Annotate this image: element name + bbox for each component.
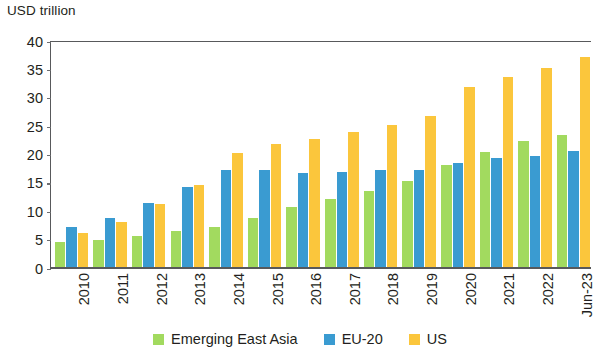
x-axis-label: 2016: [308, 273, 324, 305]
bar: [248, 218, 259, 269]
bar: [66, 227, 77, 268]
y-axis-tick-label: 15: [9, 174, 43, 193]
bar: [503, 77, 514, 268]
chart-legend: Emerging East AsiaEU-20US: [0, 332, 600, 347]
bar: [55, 242, 66, 268]
legend-swatch-icon: [409, 334, 420, 345]
x-axis-label: 2021: [501, 273, 517, 305]
legend-swatch-icon: [324, 334, 335, 345]
bar-group: [132, 42, 166, 268]
y-axis-unit-title: USD trillion: [7, 3, 76, 18]
bar: [182, 187, 193, 268]
bar: [271, 144, 282, 268]
bar-group: [557, 42, 591, 268]
bar: [325, 199, 336, 268]
y-axis-tick-label: 10: [9, 203, 43, 222]
bar: [232, 153, 243, 268]
bar: [209, 227, 220, 268]
bar: [541, 68, 552, 268]
bar: [171, 231, 182, 268]
bar: [402, 181, 413, 268]
x-axis-label: 2022: [540, 273, 556, 305]
y-axis-tick-label: 30: [9, 89, 43, 108]
bar-group: [325, 42, 359, 268]
bar-group: [286, 42, 320, 268]
bar: [194, 185, 205, 268]
bar-group: [93, 42, 127, 268]
legend-label: Emerging East Asia: [171, 332, 298, 347]
bar: [155, 204, 166, 268]
bar: [337, 172, 348, 268]
x-axis-label: 2018: [385, 273, 401, 305]
bar-group: [209, 42, 243, 268]
bar-chart: USD trillion 4035302520151050 2010201120…: [0, 0, 600, 354]
bar-group: [441, 42, 475, 268]
bar: [453, 163, 464, 268]
bar: [364, 191, 375, 268]
legend-swatch-icon: [153, 334, 164, 345]
bar: [491, 158, 502, 268]
bar: [132, 236, 143, 268]
plot-area: 4035302520151050: [50, 41, 591, 268]
bar: [93, 240, 104, 268]
y-axis-tick-label: 0: [9, 260, 43, 279]
y-axis-tick-label: 25: [9, 118, 43, 137]
bar: [580, 57, 591, 268]
x-axis-label: Jun-23: [579, 273, 595, 317]
bar: [518, 141, 529, 268]
bar: [441, 165, 452, 268]
bar: [530, 156, 541, 268]
y-axis-tick-label: 40: [9, 33, 43, 52]
x-axis-label: 2012: [154, 273, 170, 305]
bar: [259, 170, 270, 268]
bar: [309, 139, 320, 268]
bar: [116, 222, 127, 268]
bar: [143, 203, 154, 268]
legend-item[interactable]: US: [409, 332, 447, 347]
bar: [464, 87, 475, 268]
legend-item[interactable]: Emerging East Asia: [153, 332, 298, 347]
bar: [568, 151, 579, 268]
bar-group: [171, 42, 205, 268]
bar: [221, 170, 232, 268]
x-axis-label: 2019: [424, 273, 440, 305]
bar: [375, 170, 386, 268]
legend-label: US: [427, 332, 447, 347]
bar-group: [518, 42, 552, 268]
bar-group: [402, 42, 436, 268]
bar-group: [480, 42, 514, 268]
x-axis-label: 2011: [115, 273, 131, 304]
bar: [557, 135, 568, 268]
bar: [348, 132, 359, 268]
bar: [298, 173, 309, 268]
bar: [78, 233, 89, 268]
y-axis-tick-label: 20: [9, 146, 43, 165]
bar-group: [364, 42, 398, 268]
legend-item[interactable]: EU-20: [324, 332, 383, 347]
y-axis-tick-label: 5: [9, 231, 43, 250]
x-axis-label: 2010: [76, 273, 92, 305]
bar-group: [55, 42, 89, 268]
bar: [387, 125, 398, 268]
x-axis-label: 2014: [231, 273, 247, 305]
x-axis-label: 2015: [270, 273, 286, 305]
x-axis-label: 2013: [192, 273, 208, 305]
x-axis-label: 2020: [463, 273, 479, 305]
bar: [286, 207, 297, 268]
bar: [425, 116, 436, 268]
y-axis-tick-label: 35: [9, 61, 43, 80]
bar: [414, 170, 425, 268]
x-axis-labels: 2010201120122013201420152016201720182019…: [50, 269, 591, 329]
bar: [105, 218, 116, 268]
bar-group: [248, 42, 282, 268]
bar: [480, 152, 491, 268]
legend-label: EU-20: [342, 332, 383, 347]
x-axis-label: 2017: [347, 273, 363, 305]
bars-layer: [51, 42, 591, 268]
